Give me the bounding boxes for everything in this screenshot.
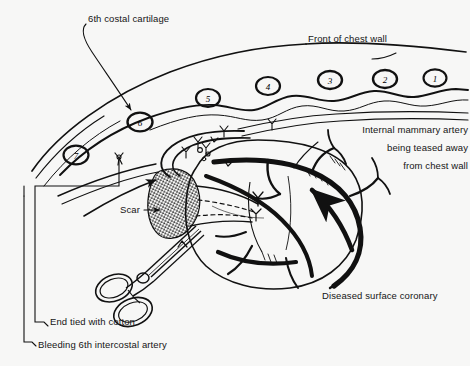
rib-number-1-label: 1 xyxy=(433,74,438,84)
leader-chest-wall xyxy=(372,53,396,59)
rib-number-2-label: 2 xyxy=(383,75,388,85)
rib-number-7-label: 7 xyxy=(74,151,79,161)
rib-number-4: 4 xyxy=(256,77,280,95)
rib-number-3-label: 3 xyxy=(327,76,333,86)
rib-number-5-label: 5 xyxy=(206,94,211,104)
label-scar: Scar xyxy=(120,205,140,215)
label-chest-wall: Front of chest wall xyxy=(308,34,387,44)
surgical-illustration: 1 2 3 4 5 6 7 xyxy=(0,0,470,366)
label-mammary-line1: Internal mammary artery xyxy=(240,125,468,135)
rib-number-4-label: 4 xyxy=(266,82,271,92)
rib-number-6: 6 xyxy=(128,113,153,132)
label-diseased-coronary: Diseased surface coronary xyxy=(322,291,438,301)
illustration-canvas: 1 2 3 4 5 6 7 xyxy=(0,0,470,366)
label-end-tied-cotton: End tied with cotton xyxy=(50,317,135,327)
leader-costal-cartilage xyxy=(83,24,131,110)
rib-number-1: 1 xyxy=(424,69,447,86)
rib-number-6-label: 6 xyxy=(138,118,143,128)
label-costal-cartilage: 6th costal cartilage xyxy=(88,14,169,24)
label-mammary-line3: from chest wall xyxy=(240,161,468,171)
label-bleeding-artery: Bleeding 6th intercostal artery xyxy=(38,340,167,350)
rib-number-2: 2 xyxy=(373,70,397,88)
leader-bleeding xyxy=(24,196,36,346)
label-mammary-line2: being teased away xyxy=(240,143,468,153)
rib-number-7: 7 xyxy=(64,146,89,165)
rib-number-3: 3 xyxy=(318,71,342,89)
